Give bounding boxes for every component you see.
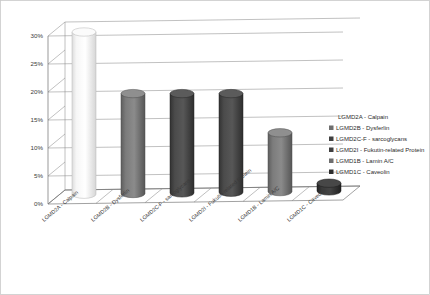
y-tick-25: 25% [31,60,44,67]
y-tick-15: 15% [31,116,44,123]
x-label-lgmd1b: LGMD1B - Lamin A/C [237,185,281,223]
legend-swatch-lgmd2c-f [329,137,334,142]
y-tick-20: 20% [31,88,44,95]
bar-chart-3d: 30% 25% 20% 15% 10% 5% 0% [0,0,430,295]
y-tick-0: 0% [34,200,43,207]
bar-lgmd1b[interactable] [268,129,292,196]
legend-label-lgmd2i: LGMD2I - Fukutin-related Protein [336,147,424,153]
bar-lgmd2a[interactable] [72,28,96,199]
chart-container: 30% 25% 20% 15% 10% 5% 0% [0,0,430,295]
y-tick-30: 30% [31,32,44,39]
chart-legend: LGMD2A - Calpain LGMD2B - Dysferlin LGMD… [329,114,424,175]
legend-label-lgmd1b: LGMD1B - Lamin A/C [336,158,394,164]
legend-swatch-lgmd1b [329,159,334,164]
legend-label-lgmd1c: LGMD1C - Caveolin [336,169,390,175]
legend-swatch-lgmd1c [329,170,334,175]
x-label-lgmd2c-f: LGMD2C-F - sarcoglycans [139,177,192,223]
legend-swatch-lgmd2i [329,148,334,153]
legend-swatch-lgmd2b [329,126,334,131]
bar-lgmd2b[interactable] [121,89,145,197]
y-tick-10: 10% [31,144,44,151]
y-tick-5: 5% [34,172,43,179]
legend-label-lgmd2a: LGMD2A - Calpain [338,114,388,120]
legend-label-lgmd2b: LGMD2B - Dysferlin [336,125,389,131]
legend-label-lgmd2c-f: LGMD2C-F - sarcoglycans [336,136,407,142]
y-axis-tick-labels: 30% 25% 20% 15% 10% 5% 0% [31,32,44,207]
